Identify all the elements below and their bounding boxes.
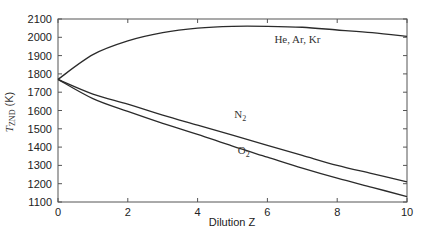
y-axis-title: TZND (K)	[3, 92, 17, 132]
x-axis-title: Dilution Z	[209, 216, 256, 228]
x-tick-label: 6	[264, 206, 270, 218]
series-label-o2: O2	[238, 144, 250, 159]
data-series	[58, 26, 407, 196]
y-axis-title-subscript: ZND	[8, 109, 17, 126]
y-tick-label: 1400	[28, 141, 52, 153]
y-tick-label: 1600	[28, 105, 52, 117]
x-tick-label: 4	[195, 206, 201, 218]
y-tick-label: 2100	[28, 13, 52, 25]
line-chart: 0246810 11001200130014001500160017001800…	[0, 0, 422, 243]
y-tick-label: 1100	[28, 196, 52, 208]
series-line-he-ar-kr	[58, 26, 407, 79]
series-labels: He, Ar, KrN2O2	[234, 33, 320, 160]
y-tick-label: 1800	[28, 68, 52, 80]
y-tick-label: 1700	[28, 86, 52, 98]
y-tick-label: 1500	[28, 123, 52, 135]
series-label-n2: N2	[234, 108, 246, 123]
x-tick-label: 8	[334, 206, 340, 218]
y-tick-label: 1900	[28, 50, 52, 62]
series-line-n2	[58, 79, 407, 181]
x-tick-label: 10	[401, 206, 413, 218]
x-tick-label: 2	[125, 206, 131, 218]
y-axis-title-unit: (K)	[3, 92, 15, 110]
y-axis-tick-labels: 1100120013001400150016001700180019002000…	[28, 13, 52, 208]
y-tick-label: 2000	[28, 31, 52, 43]
series-label-he-ar-kr: He, Ar, Kr	[274, 33, 320, 45]
series-line-o2	[58, 79, 407, 196]
y-tick-label: 1200	[28, 178, 52, 190]
y-tick-label: 1300	[28, 159, 52, 171]
x-tick-label: 0	[55, 206, 61, 218]
